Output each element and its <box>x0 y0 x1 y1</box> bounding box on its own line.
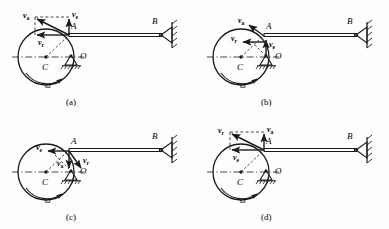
label-a: A <box>70 21 77 31</box>
panel-caption-a: (a) <box>66 97 76 107</box>
mechanics-diagram-svg: C ω O A B va ve vr (a) <box>0 0 389 229</box>
label-b: B <box>347 131 353 141</box>
pin-point-o <box>264 169 267 172</box>
label-a: A <box>265 21 272 31</box>
panel-caption-d: (d) <box>261 212 272 222</box>
label-c: C <box>237 62 244 72</box>
label-o: O <box>275 166 282 176</box>
label-omega: ω <box>240 81 246 90</box>
figure-container: C ω O A B va ve vr (a) <box>0 0 389 229</box>
label-c: C <box>42 62 49 72</box>
label-b: B <box>152 16 158 26</box>
pin-point-o <box>69 54 72 57</box>
panel-caption-b: (b) <box>261 97 272 107</box>
label-omega: ω <box>45 196 51 205</box>
label-c: C <box>42 177 49 187</box>
label-b: B <box>152 131 158 141</box>
label-b: B <box>347 16 353 26</box>
pin-point-o <box>69 169 72 172</box>
label-o: O <box>275 51 282 61</box>
panel-caption-c: (c) <box>66 212 76 222</box>
label-o: O <box>80 51 87 61</box>
label-a: A <box>265 136 272 146</box>
label-omega: ω <box>240 196 246 205</box>
label-a: A <box>70 136 77 146</box>
label-omega: ω <box>45 81 51 90</box>
label-c: C <box>237 177 244 187</box>
